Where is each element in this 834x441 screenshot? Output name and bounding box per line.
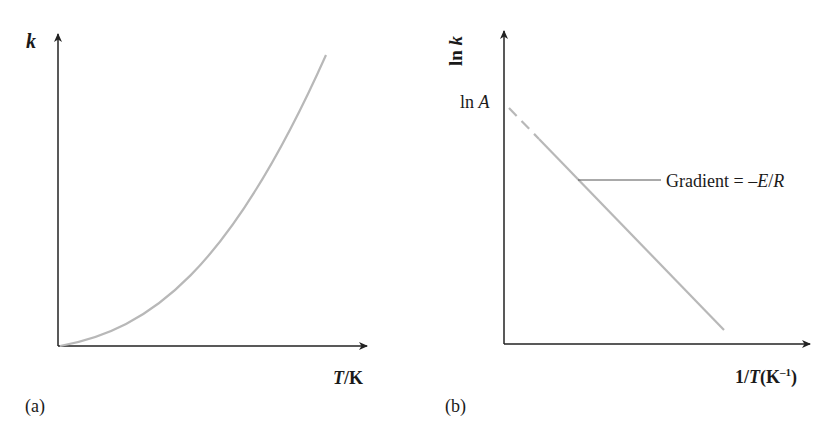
panel-b-x-prefix: 1/ (735, 367, 749, 387)
panel-b-x-label: 1/T(K–1) (735, 366, 797, 388)
panel-b-line (539, 139, 724, 330)
panel-b-extrapolation-dashed (509, 108, 539, 139)
panel-b-x-var: T (749, 367, 760, 387)
panel-b-y-label-ln: ln (445, 45, 466, 66)
panel-b-intercept-label: ln A (460, 92, 490, 113)
panel-b-y-label-var: k (445, 36, 466, 46)
panel-a-tag: (a) (25, 396, 45, 417)
panel-a-x-label-var: T (333, 368, 344, 388)
panel-a-y-label: k (26, 30, 36, 53)
gradient-prefix: Gradient = – (666, 171, 757, 191)
panel-b-x-exp: –1 (780, 366, 791, 378)
panel-a-x-label: T/K (333, 368, 363, 389)
panel-a-axes (58, 34, 367, 346)
intercept-ln: ln (460, 92, 479, 112)
gradient-annotation: Gradient = –E/R (666, 171, 784, 192)
panel-a-curve (60, 55, 326, 346)
intercept-var: A (479, 92, 490, 112)
panel-b-y-label: ln k (445, 36, 467, 66)
gradient-R: R (773, 171, 784, 191)
panel-b-x-unit: (K (760, 367, 780, 387)
arrhenius-figure (0, 0, 834, 441)
panel-b-x-close: ) (791, 367, 797, 387)
panel-b-tag: (b) (445, 396, 466, 417)
gradient-E: E (757, 171, 768, 191)
panel-a-x-label-unit: /K (344, 368, 363, 388)
